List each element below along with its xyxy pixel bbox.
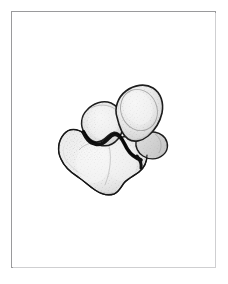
figure-caption [12,12,13,13]
bone-illustration [51,70,177,212]
figure-area [12,12,215,267]
illustration-plate [11,11,216,268]
plate-label [12,12,13,13]
page-canvas [0,0,228,284]
